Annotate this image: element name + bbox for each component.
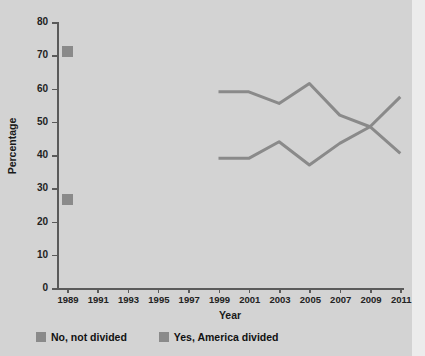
legend-swatch-icon bbox=[159, 332, 169, 342]
legend-label: Yes, America divided bbox=[174, 331, 279, 343]
series-line-no-not-divided bbox=[219, 84, 401, 127]
legend-item-no-not-divided[interactable]: No, not divided bbox=[36, 331, 127, 343]
line-chart: Percentage Year 0 10 20 30 40 50 60 70 8… bbox=[0, 0, 425, 356]
page-edge-strip bbox=[412, 0, 425, 356]
series-lines bbox=[0, 0, 425, 356]
legend-item-yes-america-divided[interactable]: Yes, America divided bbox=[159, 331, 279, 343]
chart-legend: No, not divided Yes, America divided bbox=[36, 329, 279, 345]
legend-swatch-icon bbox=[36, 332, 46, 342]
legend-label: No, not divided bbox=[51, 331, 127, 343]
series-line-yes-america-divided bbox=[219, 127, 401, 165]
